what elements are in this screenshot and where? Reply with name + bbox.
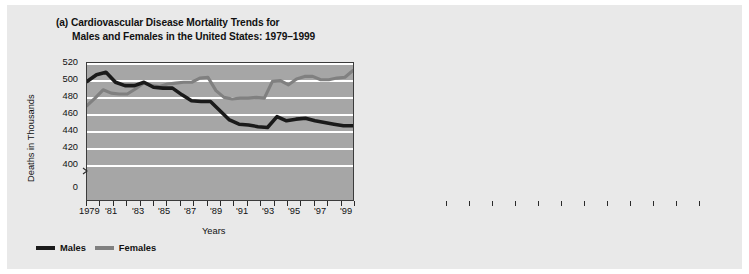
chart-a-ytick-460: 460: [38, 108, 78, 118]
x-axis-tick-mark: [676, 201, 677, 206]
chart-a-xtick-95: '95: [288, 206, 300, 216]
chart-a-xtick-81: '81: [105, 206, 117, 216]
x-axis-tick-mark: [515, 201, 516, 206]
x-axis-tick-mark: [538, 201, 539, 206]
x-axis-tick-mark: [113, 201, 114, 206]
chart-a-ytick-520: 520: [38, 57, 78, 67]
x-axis-tick-mark: [99, 201, 100, 206]
chart-a-title: (a) Cardiovascular Disease Mortality Tre…: [56, 16, 315, 43]
x-axis-tick-mark: [584, 201, 585, 206]
legend-label-males: Males: [60, 243, 86, 253]
chart-a-xtick-97: '97: [314, 206, 326, 216]
chart-a-legend: Males Females: [36, 243, 156, 253]
x-axis-tick-mark: [653, 201, 654, 206]
chart-a-xtick-91: '91: [236, 206, 248, 216]
chart-a-ytick-420: 420: [38, 142, 78, 152]
chart-a-xtick-1979: 1979: [79, 206, 100, 216]
legend-item-males: Males: [36, 243, 86, 253]
chart-a-ytick-400: 400: [38, 159, 78, 169]
x-axis-tick-mark: [314, 201, 315, 206]
x-axis-tick-mark: [247, 201, 248, 206]
x-axis-tick-mark: [327, 201, 328, 206]
chart-a-ytick-0: 0: [38, 182, 78, 192]
x-axis-tick-mark: [233, 201, 234, 206]
series-line-females: [87, 71, 353, 106]
x-axis-tick-mark: [207, 201, 208, 206]
x-axis-tick-mark: [492, 201, 493, 206]
chart-a-ytick-500: 500: [38, 74, 78, 84]
x-axis-tick-mark: [193, 201, 194, 206]
chart-a-plot-area: [86, 62, 354, 201]
x-axis-tick-mark: [354, 201, 355, 206]
legend-swatch-females-icon: [95, 246, 114, 249]
x-axis-tick-mark: [469, 201, 470, 206]
x-axis-tick-mark: [126, 201, 127, 206]
x-axis-tick-mark: [300, 201, 301, 206]
chart-a-ytick-440: 440: [38, 125, 78, 135]
chart-a-xtick-83: '83: [132, 206, 144, 216]
x-axis-tick-mark: [287, 201, 288, 206]
chart-a-title-line1: (a) Cardiovascular Disease Mortality Tre…: [56, 17, 279, 28]
x-axis-tick-mark: [180, 201, 181, 206]
x-axis-tick-mark: [220, 201, 221, 206]
chart-a-xtick-89: '89: [210, 206, 222, 216]
x-axis-tick-mark: [274, 201, 275, 206]
x-axis-tick-mark: [607, 201, 608, 206]
figure-root: (a) Cardiovascular Disease Mortality Tre…: [0, 0, 749, 274]
x-axis-tick-mark: [153, 201, 154, 206]
legend-label-females: Females: [119, 243, 156, 253]
x-axis-tick-mark: [630, 201, 631, 206]
chart-a-y-axis-label: Deaths in Thousands: [26, 94, 36, 182]
y-axis-break-icon: [82, 166, 91, 175]
chart-a-title-line2: Males and Females in the United States: …: [56, 30, 315, 44]
chart-a-x-axis-label: Years: [202, 226, 225, 236]
x-axis-tick-mark: [260, 201, 261, 206]
legend-item-females: Females: [95, 243, 156, 253]
x-axis-tick-mark: [86, 201, 87, 206]
chart-a-xtick-87: '87: [184, 206, 196, 216]
x-axis-tick-mark: [341, 201, 342, 206]
chart-a-series-group: [87, 63, 353, 200]
x-axis-tick-mark: [166, 201, 167, 206]
chart-a-ytick-480: 480: [38, 91, 78, 101]
chart-panel-b: (b) Deaths from Disease of the Heart in …: [372, 0, 749, 274]
chart-a-xtick-85: '85: [158, 206, 170, 216]
chart-panel-a: (a) Cardiovascular Disease Mortality Tre…: [0, 0, 372, 274]
x-axis-tick-mark: [699, 201, 700, 206]
x-axis-tick-mark: [561, 201, 562, 206]
x-axis-tick-mark: [446, 201, 447, 206]
chart-a-xtick-99: '99: [340, 206, 352, 216]
legend-swatch-males-icon: [36, 246, 55, 249]
chart-a-xtick-93: '93: [262, 206, 274, 216]
x-axis-tick-mark: [140, 201, 141, 206]
series-line-males: [87, 72, 353, 127]
